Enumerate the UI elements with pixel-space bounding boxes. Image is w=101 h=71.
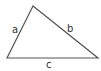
triangle-shape (7, 6, 98, 58)
side-label-a: a (12, 24, 18, 35)
side-label-b: b (67, 23, 73, 34)
triangle-diagram: a b c (0, 0, 101, 71)
side-label-c: c (46, 59, 52, 70)
